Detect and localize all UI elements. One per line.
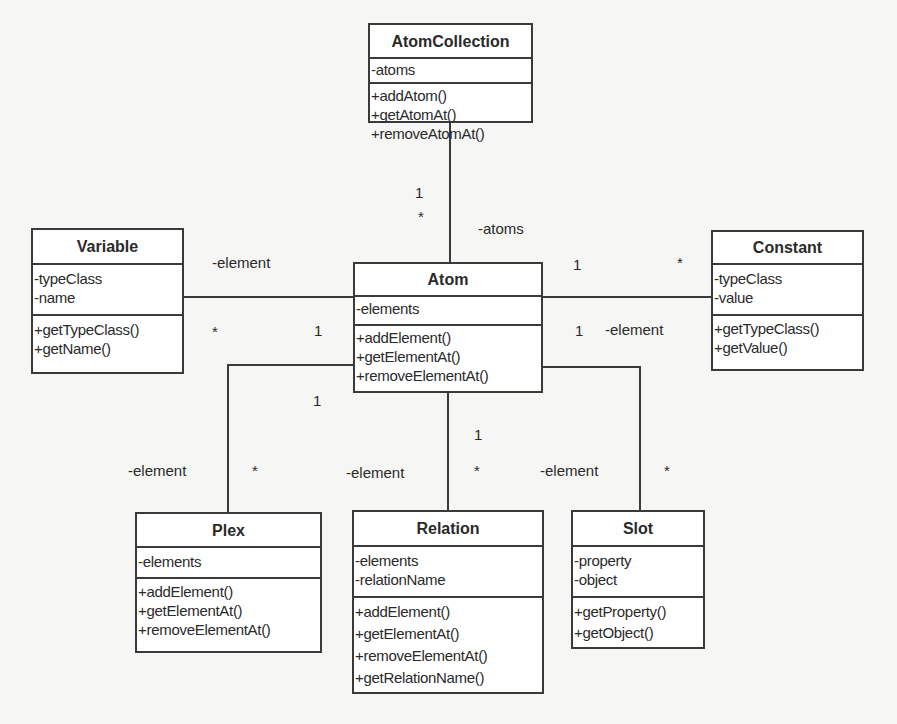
operation: +getTypeClass() [34, 320, 182, 339]
attribute: -elements [355, 551, 542, 570]
class-operations: +addElement() +getElementAt() +removeEle… [354, 598, 542, 691]
class-title: Relation [354, 512, 542, 547]
class-operations: +getTypeClass() +getName() [33, 316, 182, 360]
operation: +getName() [34, 339, 182, 358]
line-atom-plex [228, 365, 353, 512]
multiplicity-label: 1 [575, 322, 583, 339]
class-operations: +addAtom() +getAtomAt() +removeAtomAt() [370, 84, 531, 145]
attribute: -name [34, 288, 182, 307]
class-atomcollection[interactable]: AtomCollection -atoms +addAtom() +getAto… [368, 23, 533, 123]
attribute: -property [574, 551, 703, 570]
operation: +getRelationName() [355, 667, 542, 689]
class-title: Variable [33, 230, 182, 265]
attribute: -elements [138, 552, 320, 571]
operation: +getElementAt() [356, 347, 541, 366]
attribute: -value [714, 288, 862, 307]
multiplicity-label: * [677, 254, 683, 271]
class-title: Constant [713, 232, 862, 265]
multiplicity-label: 1 [573, 256, 581, 273]
attribute: -elements [356, 299, 541, 318]
attribute: -typeClass [34, 269, 182, 288]
role-label: -element [346, 464, 404, 481]
operation: +getValue() [714, 338, 862, 357]
operation: +removeElementAt() [138, 620, 320, 639]
class-operations: +getTypeClass() +getValue() [713, 316, 862, 359]
class-attributes: -elements [355, 297, 541, 326]
attribute: -atoms [371, 60, 531, 79]
multiplicity-label: * [418, 208, 424, 225]
role-label: -element [605, 321, 663, 338]
class-attributes: -elements [137, 548, 320, 579]
class-attributes: -atoms [370, 59, 531, 84]
multiplicity-label: * [474, 462, 480, 479]
class-title: AtomCollection [370, 25, 531, 59]
class-atom[interactable]: Atom -elements +addElement() +getElement… [353, 262, 543, 393]
attribute: -object [574, 570, 703, 589]
class-attributes: -elements -relationName [354, 547, 542, 598]
class-attributes: -typeClass -value [713, 265, 862, 316]
class-attributes: -property -object [573, 547, 703, 598]
role-label: -atoms [478, 220, 524, 237]
operation: +removeAtomAt() [371, 124, 531, 143]
class-title: Plex [137, 514, 320, 548]
operation: +getObject() [574, 622, 703, 643]
class-title: Slot [573, 512, 703, 547]
class-operations: +getProperty() +getObject() [573, 598, 703, 645]
multiplicity-label: * [252, 462, 258, 479]
class-operations: +addElement() +getElementAt() +removeEle… [137, 579, 320, 641]
operation: +addAtom() [371, 86, 531, 105]
class-constant[interactable]: Constant -typeClass -value +getTypeClass… [711, 230, 864, 371]
operation: +getTypeClass() [714, 319, 862, 338]
role-label: -element [540, 462, 598, 479]
class-attributes: -typeClass -name [33, 265, 182, 316]
attribute: -typeClass [714, 269, 862, 288]
multiplicity-label: * [212, 323, 218, 340]
class-relation[interactable]: Relation -elements -relationName +addEle… [352, 510, 544, 694]
operation: +addElement() [356, 328, 541, 347]
class-plex[interactable]: Plex -elements +addElement() +getElement… [135, 512, 322, 653]
role-label: -element [212, 254, 270, 271]
class-title: Atom [355, 264, 541, 297]
line-atom-slot [542, 367, 640, 510]
multiplicity-label: 1 [314, 322, 322, 339]
operation: +getProperty() [574, 601, 703, 622]
operation: +addElement() [355, 601, 542, 623]
operation: +removeElementAt() [355, 645, 542, 667]
operation: +removeElementAt() [356, 366, 541, 385]
class-variable[interactable]: Variable -typeClass -name +getTypeClass(… [31, 228, 184, 374]
multiplicity-label: 1 [474, 426, 482, 443]
operation: +getAtomAt() [371, 105, 531, 124]
operation: +addElement() [138, 582, 320, 601]
class-operations: +addElement() +getElementAt() +removeEle… [355, 326, 541, 387]
operation: +getElementAt() [355, 623, 542, 645]
role-label: -element [128, 462, 186, 479]
multiplicity-label: 1 [415, 184, 423, 201]
multiplicity-label: * [664, 462, 670, 479]
class-slot[interactable]: Slot -property -object +getProperty() +g… [571, 510, 705, 649]
operation: +getElementAt() [138, 601, 320, 620]
attribute: -relationName [355, 570, 542, 589]
multiplicity-label: 1 [313, 392, 321, 409]
